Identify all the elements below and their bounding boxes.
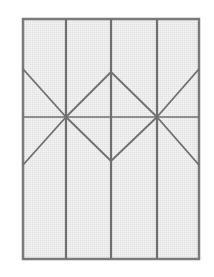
crease-pattern-diagram (0, 0, 214, 277)
